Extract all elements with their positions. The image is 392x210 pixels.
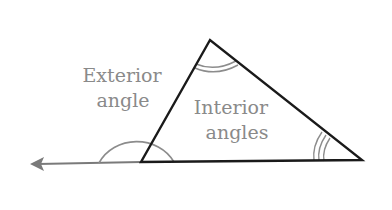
triangle-angle-diagram: Exterior angle Interior angles bbox=[0, 0, 392, 210]
interior-label-line1: Interior bbox=[194, 96, 269, 118]
interior-label-line2: angles bbox=[206, 121, 269, 143]
right-angle-marks bbox=[314, 132, 330, 161]
exterior-label-line1: Exterior bbox=[82, 64, 162, 86]
diagram-svg: Exterior angle Interior angles bbox=[0, 0, 392, 210]
top-angle-marks bbox=[195, 61, 238, 72]
exterior-label-line2: angle bbox=[96, 89, 149, 111]
extension-ray bbox=[30, 157, 141, 171]
exterior-angle-arc bbox=[99, 142, 174, 163]
